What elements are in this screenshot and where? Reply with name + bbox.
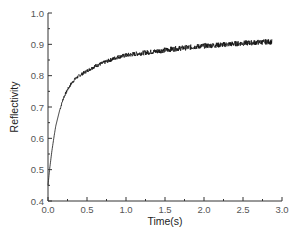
axes: 0.00.51.01.52.02.53.0 0.40.50.60.70.80.9… bbox=[31, 8, 289, 216]
x-tick-label: 0.5 bbox=[80, 204, 93, 215]
x-ticks: 0.00.51.01.52.02.53.0 bbox=[41, 197, 288, 215]
x-tick-label: 3.0 bbox=[275, 204, 288, 215]
y-tick-label: 0.6 bbox=[31, 133, 44, 144]
x-tick-label: 2.0 bbox=[197, 204, 210, 215]
y-axis-label: Reflectivity bbox=[8, 81, 20, 133]
plot-area bbox=[48, 39, 272, 185]
y-tick-label: 0.7 bbox=[31, 102, 44, 113]
x-tick-label: 2.5 bbox=[236, 204, 249, 215]
y-tick-label: 0.8 bbox=[31, 70, 44, 81]
y-tick-label: 0.9 bbox=[31, 39, 44, 50]
y-tick-label: 0.4 bbox=[31, 196, 44, 207]
y-tick-label: 0.5 bbox=[31, 164, 44, 175]
reflectivity-chart: 0.00.51.01.52.02.53.0 0.40.50.60.70.80.9… bbox=[0, 0, 303, 241]
y-tick-label: 1.0 bbox=[31, 8, 44, 19]
x-axis-label: Time(s) bbox=[147, 215, 182, 227]
x-tick-label: 1.0 bbox=[119, 204, 132, 215]
x-tick-label: 1.5 bbox=[158, 204, 171, 215]
reflectivity-series-line bbox=[48, 39, 272, 185]
